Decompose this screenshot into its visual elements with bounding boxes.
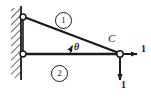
point-c-label: C xyxy=(108,33,115,44)
member-1-label: 1 xyxy=(55,12,72,29)
angle-theta-label: θ xyxy=(74,42,79,52)
lower-pin-joint xyxy=(20,51,26,57)
vertical-force-label: 1 xyxy=(121,80,126,90)
joint-c-pin xyxy=(117,51,123,57)
angle-theta-arc xyxy=(70,46,73,54)
truss-diagram: 1 2 θ C 1 1 xyxy=(0,0,151,100)
upper-pin-joint xyxy=(20,14,26,20)
wall-hatching xyxy=(11,8,21,78)
horizontal-force-label: 1 xyxy=(141,44,146,54)
member-2-label: 2 xyxy=(51,65,68,82)
